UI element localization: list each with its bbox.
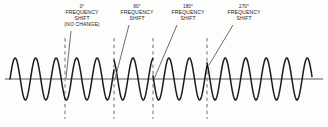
annotation-line2: SHIFT xyxy=(172,15,205,21)
annotation-line2: SHIFT xyxy=(121,15,154,21)
annotation-line2: SHIFT xyxy=(228,15,261,21)
annotation-shift-90: 90° FREQUENCY SHIFT xyxy=(121,4,154,21)
annotation-shift-180: 180° FREQUENCY SHIFT xyxy=(172,4,205,21)
annotation-shift-0: 0° FREQUENCY SHIFT (NO CHANGE) xyxy=(64,4,99,27)
waveform-plot xyxy=(0,0,328,127)
annotation-shift-270: 270° FREQUENCY SHIFT xyxy=(228,4,261,21)
annotation-line3: (NO CHANGE) xyxy=(64,21,99,27)
psk-waveform-figure: 0° FREQUENCY SHIFT (NO CHANGE) 90° FREQU… xyxy=(0,0,328,127)
